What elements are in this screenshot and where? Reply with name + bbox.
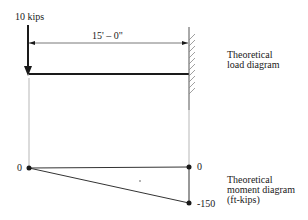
fixed-support-icon: [189, 27, 195, 168]
moment-diagram-caption: Theoretical moment diagram (ft-kips): [227, 175, 308, 205]
moment-diagram: [27, 165, 192, 206]
load-diagram-caption: Theoretical load diagram: [227, 50, 308, 70]
moment-left-value: 0: [17, 163, 22, 173]
cantilever-diagram: 10 kips 15' – 0" Theoretical load diagra…: [0, 0, 308, 220]
load-arrow-icon: [24, 25, 32, 76]
span-label: 15' – 0": [92, 31, 123, 41]
force-label: 10 kips: [15, 12, 44, 22]
moment-right-top-value: 0: [197, 162, 202, 172]
moment-right-bottom-value: -150: [197, 199, 215, 209]
span-dimension-line: [29, 41, 188, 45]
